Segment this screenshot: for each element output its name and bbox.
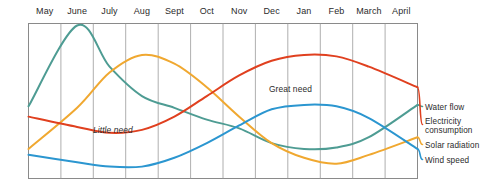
legend-connector-solar-radiation <box>418 137 423 144</box>
x-tick-oct: Oct <box>200 6 214 16</box>
legend-item-wind-speed: Wind speed <box>425 156 469 165</box>
legend-label-electricity-line1: Electricity <box>425 117 461 126</box>
x-tick-june: June <box>67 6 87 16</box>
x-tick-dec: Dec <box>263 6 279 16</box>
x-tick-aug: Aug <box>134 6 150 16</box>
x-tick-july: July <box>101 6 117 16</box>
legend-item-electricity-consumption: Electricity consumption <box>425 117 473 136</box>
legend-label-electricity-line2: consumption <box>425 126 473 135</box>
legend-connector-wind-speed <box>418 149 423 160</box>
x-tick-jan: Jan <box>297 6 312 16</box>
annotation-little-need: Little need <box>93 125 133 135</box>
legend-item-water-flow: Water flow <box>425 103 464 112</box>
annotation-great-need: Great need <box>269 84 312 94</box>
x-tick-feb: Feb <box>329 6 345 16</box>
legend-connectors <box>418 87 423 159</box>
legend-item-solar-radiation: Solar radiation <box>425 141 479 150</box>
x-tick-sept: Sept <box>165 6 184 16</box>
x-tick-nov: Nov <box>231 6 247 16</box>
x-tick-march: March <box>356 6 382 16</box>
x-tick-april: April <box>392 6 411 16</box>
x-tick-may: May <box>36 6 53 16</box>
chart-figure: May June July Aug Sept Oct Nov Dec Jan F… <box>0 0 503 193</box>
